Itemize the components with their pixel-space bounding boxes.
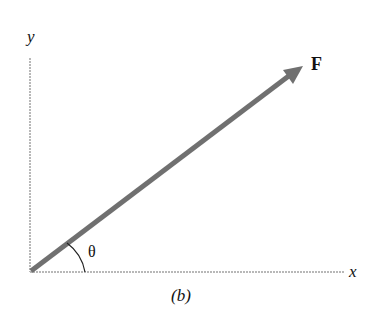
diagram-canvas	[0, 0, 373, 335]
x-axis-label: x	[349, 262, 357, 282]
force-diagram: y x F θ (b)	[0, 0, 373, 335]
caption: (b)	[171, 286, 191, 306]
angle-arc	[67, 243, 85, 272]
angle-label: θ	[88, 243, 96, 261]
force-vector-shaft	[31, 75, 290, 271]
vector-label: F	[311, 54, 322, 75]
y-axis-label: y	[27, 27, 35, 47]
